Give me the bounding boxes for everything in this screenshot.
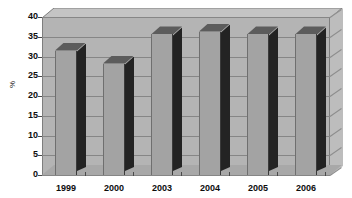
x-axis-tick-label: 2004 bbox=[190, 183, 230, 193]
bar-front-face bbox=[295, 34, 317, 175]
y-axis-tick-label: 15 bbox=[16, 111, 38, 120]
bar-side-face bbox=[173, 27, 182, 171]
x-axis-tick-mark bbox=[181, 172, 182, 176]
bar-front-face bbox=[247, 34, 269, 175]
y-axis-tick-label: 20 bbox=[16, 91, 38, 100]
x-axis-tick-mark bbox=[229, 172, 230, 176]
y-axis-tick-label: 0 bbox=[16, 170, 38, 179]
y-axis-tick-label: 10 bbox=[16, 131, 38, 140]
x-axis-tick-label: 1999 bbox=[46, 183, 86, 193]
x-axis-tick-label: 2003 bbox=[142, 183, 182, 193]
bar bbox=[199, 24, 221, 175]
bar-chart: % 4035302520151050 199920002003200420052… bbox=[0, 0, 352, 198]
bar bbox=[247, 26, 269, 175]
x-axis-tick-mark bbox=[277, 172, 278, 176]
y-axis-tick-label: 30 bbox=[16, 52, 38, 61]
bar-side-face bbox=[77, 44, 86, 171]
bar-side-face bbox=[269, 27, 278, 171]
y-axis-tick-label: 40 bbox=[16, 12, 38, 21]
x-axis-tick-label: 2006 bbox=[286, 183, 326, 193]
gridline bbox=[42, 37, 330, 38]
x-axis-tick-mark bbox=[85, 172, 86, 176]
bar-front-face bbox=[55, 51, 77, 175]
bar-side-face bbox=[317, 27, 326, 171]
y-axis-tick-labels: 4035302520151050 bbox=[14, 0, 38, 198]
bar-side-face bbox=[221, 25, 230, 171]
y-axis-tick-label: 25 bbox=[16, 71, 38, 80]
x-axis-tick-label: 2005 bbox=[238, 183, 278, 193]
y-axis-tick-label: 35 bbox=[16, 32, 38, 41]
plot-area bbox=[42, 8, 344, 182]
x-axis-tick-label: 2000 bbox=[94, 183, 134, 193]
bar-front-face bbox=[151, 34, 173, 175]
x-axis-tick-mark bbox=[133, 172, 134, 176]
bar-front-face bbox=[103, 64, 125, 175]
bar bbox=[151, 26, 173, 175]
y-axis-tick-label: 5 bbox=[16, 150, 38, 159]
bar-front-face bbox=[199, 32, 221, 175]
bar-side-face bbox=[125, 57, 134, 171]
bar bbox=[103, 56, 125, 175]
x-axis-tick-mark bbox=[325, 172, 326, 176]
bar bbox=[55, 43, 77, 175]
gridline bbox=[42, 17, 330, 18]
bar bbox=[295, 26, 317, 175]
